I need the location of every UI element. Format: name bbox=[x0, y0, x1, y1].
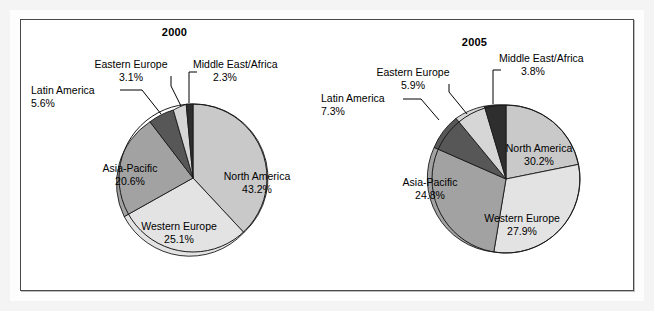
pie-label-western-europe-value: 27.9% bbox=[471, 225, 573, 238]
pie-label-middle-east-africa-value: 3.8% bbox=[499, 65, 629, 78]
figure-root: 2000 Eastern bbox=[0, 0, 654, 311]
pie-label-latin-america-value: 7.3% bbox=[321, 105, 413, 118]
pie-label-north-america: North America 43.2% bbox=[207, 170, 307, 195]
pie-label-western-europe-name: Western Europe bbox=[484, 212, 560, 224]
pie-label-latin-america: Latin America 7.3% bbox=[321, 92, 413, 117]
pie-label-eastern-europe: Eastern Europe 5.9% bbox=[351, 66, 475, 91]
pie-label-middle-east-africa: Middle East/Africa 3.8% bbox=[499, 52, 629, 77]
pie-label-western-europe-name: Western Europe bbox=[141, 220, 217, 232]
pie-label-north-america-name: North America bbox=[224, 170, 291, 182]
pie-label-latin-america-name: Latin America bbox=[321, 92, 385, 104]
pie-label-north-america: North America 30.2% bbox=[489, 142, 589, 167]
pie-label-asia-pacific-name: Asia-Pacific bbox=[403, 176, 458, 188]
pie-label-western-europe: Western Europe 27.9% bbox=[471, 212, 573, 237]
pie-label-eastern-europe-name: Eastern Europe bbox=[377, 66, 450, 78]
pie-label-eastern-europe-name: Eastern Europe bbox=[95, 58, 168, 70]
pie-chart-2000: 2000 Eastern bbox=[21, 20, 328, 292]
pie-label-latin-america-name: Latin America bbox=[31, 84, 95, 96]
figure-panel: 2000 Eastern bbox=[20, 19, 634, 291]
pie-label-middle-east-africa-name: Middle East/Africa bbox=[499, 52, 584, 64]
pie-label-asia-pacific-value: 24.8% bbox=[387, 189, 473, 202]
pie-label-north-america-value: 43.2% bbox=[207, 183, 307, 196]
pie-label-western-europe-value: 25.1% bbox=[128, 233, 230, 246]
pie-label-eastern-europe-value: 3.1% bbox=[69, 71, 193, 84]
pie-label-asia-pacific-name: Asia-Pacific bbox=[103, 162, 158, 174]
pie-label-middle-east-africa-name: Middle East/Africa bbox=[193, 58, 278, 70]
pie-label-north-america-name: North America bbox=[506, 142, 573, 154]
leader-latin-america bbox=[120, 90, 161, 114]
pie-label-western-europe: Western Europe 25.1% bbox=[128, 220, 230, 245]
pie-label-latin-america: Latin America 5.6% bbox=[31, 84, 123, 109]
pie-label-north-america-value: 30.2% bbox=[489, 155, 589, 168]
pie-chart-2005: 2005 Eastern bbox=[321, 20, 628, 292]
pie-label-eastern-europe: Eastern Europe 3.1% bbox=[69, 58, 193, 83]
pie-label-asia-pacific-value: 20.6% bbox=[87, 175, 173, 188]
pie-label-middle-east-africa-value: 2.3% bbox=[193, 71, 325, 84]
pie-label-middle-east-africa: Middle East/Africa 2.3% bbox=[193, 58, 325, 83]
pie-label-latin-america-value: 5.6% bbox=[31, 97, 123, 110]
pie-label-eastern-europe-value: 5.9% bbox=[351, 79, 475, 92]
pie-label-asia-pacific: Asia-Pacific 20.6% bbox=[87, 162, 173, 187]
pie-label-asia-pacific: Asia-Pacific 24.8% bbox=[387, 176, 473, 201]
